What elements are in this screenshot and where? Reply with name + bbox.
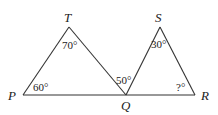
point-label-Q: Q <box>121 98 131 113</box>
angle-label-S: 30° <box>151 38 166 50</box>
point-label-R: R <box>200 88 209 103</box>
point-label-P: P <box>7 88 16 103</box>
angle-label-R: ?° <box>176 81 185 93</box>
angle-label-TQP: 50° <box>116 74 131 86</box>
point-label-S: S <box>155 10 162 25</box>
point-label-T: T <box>64 10 72 25</box>
angle-label-T: 70° <box>62 39 77 51</box>
geometry-diagram: T P Q S R 70° 60° 50° 30° ?° <box>0 0 218 115</box>
angle-label-P: 60° <box>33 81 48 93</box>
